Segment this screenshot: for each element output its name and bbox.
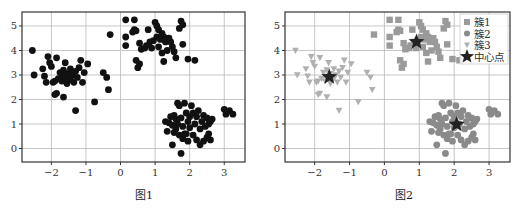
legend-label: 中心点 <box>474 51 504 63</box>
data-point-circle <box>453 102 460 109</box>
x-tick-label: 3 <box>221 167 227 178</box>
x-axis: −2−10123 <box>307 162 492 178</box>
y-tick-label: 3 <box>11 69 17 80</box>
data-point-circle <box>439 121 446 128</box>
data-point-triangle-down <box>316 55 323 61</box>
data-point-triangle-down <box>325 60 332 66</box>
data-point-circle <box>60 94 67 101</box>
data-point-circle <box>229 111 236 118</box>
x-tick-label: 1 <box>416 167 422 178</box>
data-point-circle <box>470 121 477 128</box>
data-point-circle <box>122 42 129 49</box>
data-point-circle <box>53 54 60 61</box>
data-point-square <box>425 58 431 64</box>
data-point-square <box>399 64 405 70</box>
y-tick-label: 2 <box>11 94 17 105</box>
y-axis: 012345 <box>11 20 22 154</box>
scatter-plot-2: −2−10123012345簇1簇2簇3中心点 <box>262 0 517 185</box>
data-point-circle <box>178 114 185 121</box>
data-point-circle <box>136 40 143 47</box>
data-point-circle <box>53 90 60 97</box>
data-point-triangle-down <box>348 61 355 67</box>
data-point-circle <box>122 34 129 41</box>
data-point-circle <box>188 102 195 109</box>
data-point-circle <box>62 59 69 66</box>
x-tick-label: 1 <box>152 167 158 178</box>
data-point-circle <box>131 16 138 23</box>
data-point-square <box>371 31 377 37</box>
data-point-circle <box>45 53 52 60</box>
data-point-triangle-down <box>306 80 313 86</box>
data-point-square <box>464 19 470 25</box>
y-tick-label: 2 <box>274 94 280 105</box>
data-point-circle <box>204 134 211 141</box>
data-point-circle <box>205 121 212 128</box>
y-tick-label: 1 <box>274 119 280 130</box>
data-point-circle <box>105 86 112 93</box>
data-point-triangle-down <box>304 73 311 79</box>
figure-caption-1: 图1 <box>114 186 174 202</box>
data-point-triangle-down <box>303 66 310 72</box>
data-point-circle <box>433 141 440 148</box>
data-point-circle <box>81 69 88 76</box>
data-point-square <box>423 50 429 56</box>
data-point-circle <box>442 114 449 121</box>
data-point-circle <box>84 61 91 68</box>
data-point-circle <box>51 78 58 85</box>
figure-2: −2−10123012345簇1簇2簇3中心点 图2 <box>262 0 517 211</box>
data-point-square <box>435 49 441 55</box>
data-point-circle <box>185 56 192 63</box>
data-point-circle <box>171 129 178 136</box>
data-point-circle <box>91 99 98 106</box>
data-point-circle <box>428 128 435 135</box>
data-point-square <box>386 34 392 40</box>
x-axis: −2−10123 <box>44 162 227 178</box>
x-tick-label: −1 <box>79 167 94 178</box>
data-point-circle <box>191 121 198 128</box>
data-point-square <box>397 28 403 34</box>
x-tick-label: 0 <box>117 167 123 178</box>
data-point-circle <box>134 64 141 71</box>
data-point-square <box>395 17 401 23</box>
data-point-circle <box>79 79 86 86</box>
scatter-plot-1: −2−10123012345 <box>0 0 258 185</box>
y-tick-label: 3 <box>274 69 280 80</box>
legend: 簇1簇2簇3中心点 <box>460 14 508 64</box>
data-point-circle <box>494 111 501 118</box>
data-point-circle <box>145 26 152 33</box>
x-tick-label: 3 <box>486 167 492 178</box>
data-point-circle <box>181 100 188 107</box>
data-point-triangle-down <box>355 99 362 105</box>
data-point-circle <box>446 100 453 107</box>
figure-1: −2−10123012345 图1 <box>0 0 258 211</box>
y-tick-label: 4 <box>274 45 280 56</box>
data-point-circle <box>72 107 79 114</box>
data-point-triangle-down <box>311 64 318 70</box>
data-point-circle <box>160 58 167 65</box>
x-tick-label: 2 <box>451 167 457 178</box>
data-point-square <box>449 56 455 62</box>
data-point-square <box>444 22 450 28</box>
y-tick-label: 0 <box>274 143 280 154</box>
data-point-triangle-down <box>334 80 341 86</box>
x-tick-label: 0 <box>381 167 387 178</box>
data-point-circle <box>148 45 155 52</box>
y-tick-label: 5 <box>11 20 17 31</box>
data-point-circle <box>454 110 461 117</box>
data-point-circle <box>468 134 475 141</box>
x-tick-label: −2 <box>44 167 59 178</box>
data-point-circle <box>155 43 162 50</box>
y-tick-label: 1 <box>11 119 17 130</box>
data-point-circle <box>169 141 176 148</box>
data-point-square <box>386 17 392 23</box>
data-point-circle <box>191 57 198 64</box>
data-point-circle <box>76 64 83 71</box>
legend-label: 簇1 <box>474 16 491 28</box>
y-tick-label: 5 <box>274 20 280 31</box>
data-point-circle <box>464 31 470 37</box>
data-points <box>29 16 236 156</box>
data-point-circle <box>179 135 186 142</box>
data-point-circle <box>159 50 166 57</box>
data-point-triangle-down <box>336 108 343 114</box>
data-point-circle <box>31 72 38 79</box>
